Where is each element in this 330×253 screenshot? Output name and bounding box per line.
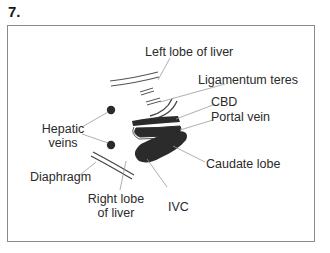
label-caudate-lobe: Caudate lobe bbox=[206, 157, 280, 171]
left-lobe-lines bbox=[110, 72, 159, 86]
label-ivc: IVC bbox=[168, 200, 189, 214]
hepatic-vein-dot-1 bbox=[107, 106, 115, 114]
label-right-lobe-line2: of liver bbox=[86, 206, 146, 220]
label-right-lobe-line1: Right lobe bbox=[86, 192, 146, 206]
hepatic-vein-dot-2 bbox=[107, 141, 115, 149]
label-hepatic-veins-line2: veins bbox=[38, 136, 88, 150]
cbd-shape bbox=[132, 116, 180, 126]
label-portal-vein: Portal vein bbox=[211, 110, 270, 124]
label-right-lobe: Right lobe of liver bbox=[86, 192, 146, 220]
label-diaphragm: Diaphragm bbox=[30, 170, 91, 184]
label-cbd: CBD bbox=[211, 95, 237, 109]
label-ligamentum-teres: Ligamentum teres bbox=[198, 73, 298, 87]
cbd-arc-lines bbox=[150, 99, 177, 119]
label-hepatic-veins: Hepatic veins bbox=[38, 122, 88, 150]
label-left-lobe: Left lobe of liver bbox=[145, 45, 233, 59]
diaphragm-lines bbox=[91, 152, 134, 179]
ligamentum-teres-marks bbox=[140, 88, 161, 105]
label-hepatic-veins-line1: Hepatic bbox=[38, 122, 88, 136]
